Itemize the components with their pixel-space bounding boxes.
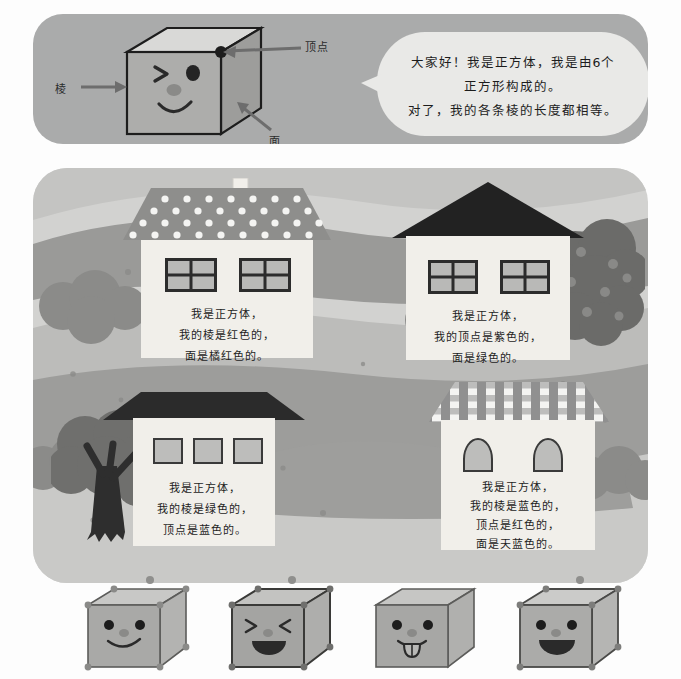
house-4-line-3: 顶点是红色的， <box>429 516 607 535</box>
label-edge: 棱 <box>55 80 67 96</box>
speech-line-3: 对了，我的各条棱的长度都相等。 <box>377 99 648 123</box>
speech-line-2: 正方形构成的。 <box>377 75 648 99</box>
house-4: 我是正方体， 我的棱是蓝色的， 顶点是红色的， 面是天蓝色的。 <box>423 382 613 552</box>
house-4-text: 我是正方体， 我的棱是蓝色的， 顶点是红色的， 面是天蓝色的。 <box>429 478 607 554</box>
landscape-panel: 我是正方体， 我的棱是红色的， 面是橘红色的。 我是正方体， 我的顶点是紫色的，… <box>33 168 648 583</box>
speech-bubble: 大家好！我是正方体，我是由6个 正方形构成的。 对了，我的各条棱的长度都相等。 <box>353 32 648 136</box>
house-2-line-1: 我是正方体， <box>396 306 580 327</box>
house-4-window-1 <box>463 438 493 472</box>
cube-1 <box>78 575 198 675</box>
house-4-line-1: 我是正方体， <box>429 478 607 497</box>
house-4-line-2: 我的棱是蓝色的， <box>429 497 607 516</box>
house-2-window-2 <box>500 260 550 294</box>
cube-3 <box>366 575 486 675</box>
worksheet-page: 顶点 棱 面 大家好！我是正方体，我是由6个 正方形构成的。 对了，我的各条棱的… <box>0 0 681 679</box>
house-2-line-3: 面是绿色的。 <box>396 348 580 369</box>
label-face: 面 <box>269 132 281 144</box>
house-3-line-1: 我是正方体， <box>107 478 303 499</box>
house-1-roof-polka-dot <box>121 178 331 244</box>
house-2-line-2: 我的顶点是紫色的， <box>396 327 580 348</box>
house-1-window-1 <box>165 258 217 292</box>
house-2-roof-triangle <box>388 180 588 242</box>
house-2-text: 我是正方体， 我的顶点是紫色的， 面是绿色的。 <box>396 306 580 369</box>
house-3-line-3: 顶点是蓝色的。 <box>107 520 303 541</box>
house-3-window-3 <box>233 438 263 464</box>
cube-character-row <box>0 575 681 679</box>
house-1-line-1: 我是正方体， <box>141 304 313 325</box>
house-3-window-2 <box>193 438 223 464</box>
speech-bubble-text: 大家好！我是正方体，我是由6个 正方形构成的。 对了，我的各条棱的长度都相等。 <box>377 48 648 126</box>
cube-2 <box>222 575 342 675</box>
house-3-text: 我是正方体， 我的棱是绿色的， 顶点是蓝色的。 <box>107 478 303 541</box>
intro-panel: 顶点 棱 面 大家好！我是正方体，我是由6个 正方形构成的。 对了，我的各条棱的… <box>33 14 648 144</box>
house-1-text: 我是正方体， 我的棱是红色的， 面是橘红色的。 <box>141 304 313 367</box>
house-1-line-2: 我的棱是红色的， <box>141 325 313 346</box>
house-1: 我是正方体， 我的棱是红色的， 面是橘红色的。 <box>121 178 331 358</box>
label-vertex: 顶点 <box>305 38 329 54</box>
house-2: 我是正方体， 我的顶点是紫色的， 面是绿色的。 <box>388 180 588 366</box>
house-1-window-2 <box>239 258 291 292</box>
house-4-window-2 <box>533 438 563 472</box>
cube-4 <box>510 575 630 675</box>
house-3-window-1 <box>153 438 183 464</box>
house-1-line-3: 面是橘红色的。 <box>141 346 313 367</box>
house-4-line-4: 面是天蓝色的。 <box>429 535 607 554</box>
speech-line-1: 大家好！我是正方体，我是由6个 <box>377 51 648 75</box>
house-3-line-2: 我的棱是绿色的， <box>107 499 303 520</box>
house-2-window-1 <box>428 260 478 294</box>
house-3: 我是正方体， 我的棱是绿色的， 顶点是蓝色的。 <box>95 390 317 550</box>
